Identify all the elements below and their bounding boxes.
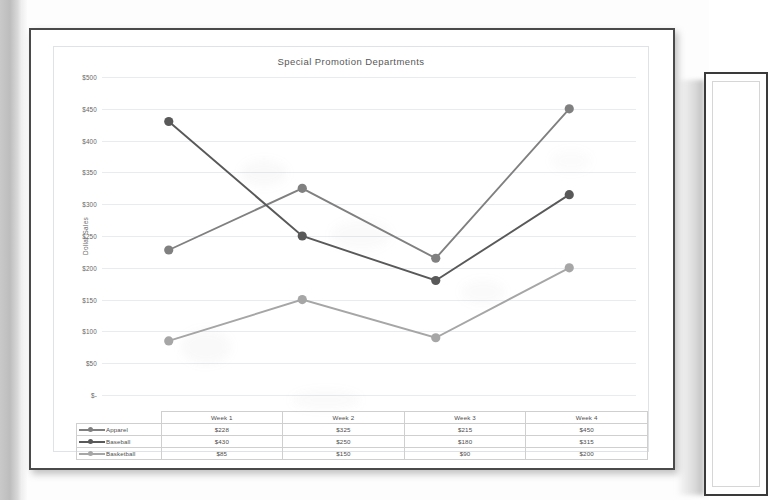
adjacent-page-inner-border — [712, 81, 760, 487]
data-point-apparel-4 — [565, 104, 574, 113]
legend-label: Apparel — [106, 426, 128, 433]
table-cell: $150 — [283, 448, 405, 460]
table-head: Week 1Week 2Week 3Week 4 — [77, 412, 648, 424]
data-point-basketball-2 — [298, 295, 307, 304]
chart-data-table: Week 1Week 2Week 3Week 4 Apparel$228$325… — [76, 411, 648, 460]
table-cell: $215 — [404, 424, 526, 436]
table-column-header-1: Week 1 — [161, 412, 283, 424]
legend-entry-baseball[interactable]: Baseball — [77, 436, 162, 448]
data-point-apparel-1 — [164, 245, 173, 254]
series-line-apparel — [169, 109, 570, 258]
data-point-baseball-3 — [431, 276, 440, 285]
table-cell: $450 — [526, 424, 648, 436]
table-cell: $85 — [161, 448, 283, 460]
series-line-basketball — [169, 268, 570, 341]
table-body: Apparel$228$325$215$450Baseball$430$250$… — [77, 424, 648, 460]
y-axis-tick-label: $350 — [82, 169, 97, 176]
y-axis-tick-label: $50 — [86, 360, 97, 367]
chart-frame: Special Promotion Departments Dollar Sal… — [53, 46, 649, 452]
y-axis-tick-label: $300 — [82, 201, 97, 208]
legend-entry-basketball[interactable]: Basketball — [77, 448, 162, 460]
adjacent-page-fragment — [704, 72, 768, 496]
table-cell: $228 — [161, 424, 283, 436]
data-point-baseball-1 — [164, 117, 173, 126]
table-column-header-4: Week 4 — [526, 412, 648, 424]
table-column-header-3: Week 3 — [404, 412, 526, 424]
table-cell: $325 — [283, 424, 405, 436]
legend-marker-icon — [79, 439, 105, 445]
legend-marker-icon — [79, 427, 105, 433]
y-axis-tick-label: $100 — [82, 328, 97, 335]
data-point-apparel-2 — [298, 184, 307, 193]
data-point-baseball-2 — [298, 231, 307, 240]
y-axis-tick-label: $150 — [82, 296, 97, 303]
y-axis-tick-label: $400 — [82, 137, 97, 144]
legend-label: Baseball — [106, 438, 131, 445]
table-header-row: Week 1Week 2Week 3Week 4 — [77, 412, 648, 424]
chart-series-layer — [102, 77, 636, 395]
table-row: Baseball$430$250$180$315 — [77, 436, 648, 448]
page-shadow-right — [676, 80, 704, 495]
legend-entry-apparel[interactable]: Apparel — [77, 424, 162, 436]
table-cell: $200 — [526, 448, 648, 460]
scan-left-edge-highlight — [22, 0, 27, 500]
y-axis-tick-label: $- — [91, 392, 97, 399]
gridline — [102, 395, 636, 396]
series-line-baseball — [169, 122, 570, 281]
table-row: Apparel$228$325$215$450 — [77, 424, 648, 436]
y-axis-tick-label: $450 — [82, 105, 97, 112]
data-point-basketball-4 — [565, 263, 574, 272]
table-cell: $430 — [161, 436, 283, 448]
chart-title: Special Promotion Departments — [54, 56, 648, 67]
scan-left-edge-strip — [0, 0, 22, 500]
data-point-baseball-4 — [565, 190, 574, 199]
y-axis-tick-label: $200 — [82, 264, 97, 271]
data-point-apparel-3 — [431, 254, 440, 263]
chart-plot-area: Dollar Sales $500$450$400$350$300$250$20… — [102, 77, 636, 395]
y-axis-tick-label: $500 — [82, 74, 97, 81]
table-row: Basketball$85$150$90$200 — [77, 448, 648, 460]
table-column-header-2: Week 2 — [283, 412, 405, 424]
legend-marker-icon — [79, 451, 105, 457]
y-axis-tick-label: $250 — [82, 233, 97, 240]
table-corner-cell — [77, 412, 162, 424]
data-point-basketball-1 — [164, 336, 173, 345]
table-cell: $250 — [283, 436, 405, 448]
legend-label: Basketball — [106, 450, 136, 457]
data-point-basketball-3 — [431, 333, 440, 342]
table-cell: $180 — [404, 436, 526, 448]
table-cell: $315 — [526, 436, 648, 448]
table-cell: $90 — [404, 448, 526, 460]
document-page: Special Promotion Departments Dollar Sal… — [29, 28, 675, 470]
